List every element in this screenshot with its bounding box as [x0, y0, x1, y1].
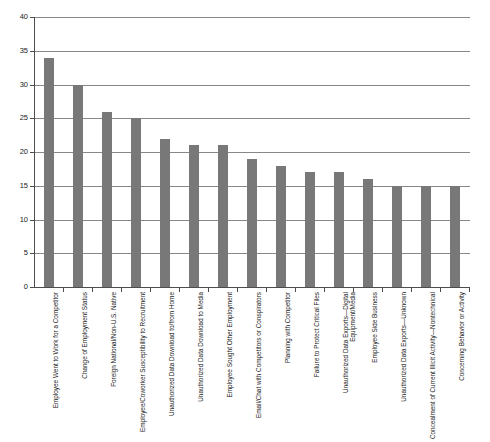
bar[interactable] — [73, 85, 83, 288]
y-axis-tick-mark — [30, 220, 34, 221]
bar[interactable] — [189, 145, 199, 287]
x-axis-tick-mark — [63, 288, 64, 292]
bar[interactable] — [276, 166, 286, 288]
bar[interactable] — [131, 118, 141, 287]
bars-container — [34, 17, 470, 287]
x-axis-tick-mark — [179, 288, 180, 292]
bar[interactable] — [247, 159, 257, 287]
x-axis-category-label: Unauthorized Data Exports—Unknown — [400, 292, 407, 440]
x-axis-category-label: Foreign National/Non-U.S. Native — [110, 292, 117, 440]
y-axis-tick-mark — [30, 51, 34, 52]
x-axis-category-label: Email/Chat with Competitors or Conspirat… — [255, 292, 262, 440]
y-axis-tick-mark — [30, 118, 34, 119]
x-axis-category-label: Unauthorized Data Download to Media — [197, 292, 204, 440]
x-axis-category-labels: Employee Went to Work for a CompetitorCh… — [0, 292, 490, 442]
y-axis-tick-mark — [30, 287, 34, 288]
x-axis-tick-mark — [121, 288, 122, 292]
y-axis-tick-label: 35 — [6, 47, 28, 55]
y-axis-tick-label: 5 — [6, 249, 28, 257]
x-axis-category-label: Concerning Behavior or Activity — [458, 292, 465, 440]
x-axis-category-label: Failure to Protect Critical Files — [313, 292, 320, 440]
x-axis-tick-mark — [266, 288, 267, 292]
bar[interactable] — [102, 112, 112, 288]
bar[interactable] — [305, 172, 315, 287]
x-axis-category-label: Concealment of Current Illicit Activity—… — [429, 292, 436, 440]
x-axis-category-label: Change of Employment Status — [81, 292, 88, 440]
x-axis-category-label: Employee Side Business — [371, 292, 378, 440]
y-axis-tick-label: 40 — [6, 13, 28, 21]
x-axis-tick-mark — [353, 288, 354, 292]
bar-chart: 0510152025303540 Employee Went to Work f… — [0, 0, 490, 442]
x-axis-category-label: Employee/Coworker Susceptibility to Recr… — [139, 292, 146, 440]
x-axis-tick-mark — [150, 288, 151, 292]
x-axis-tick-mark — [295, 288, 296, 292]
y-axis-tick-labels: 0510152025303540 — [0, 0, 28, 300]
x-axis-tick-mark — [411, 288, 412, 292]
x-axis-tick-mark — [382, 288, 383, 292]
y-axis-tick-mark — [30, 253, 34, 254]
y-axis-tick-label: 0 — [6, 283, 28, 291]
bar[interactable] — [421, 186, 431, 287]
y-axis-tick-label: 25 — [6, 114, 28, 122]
bar[interactable] — [218, 145, 228, 287]
bar[interactable] — [160, 139, 170, 288]
y-axis-tick-label: 10 — [6, 216, 28, 224]
bar[interactable] — [44, 58, 54, 288]
x-axis-category-label: Employee Sought Other Employment — [226, 292, 233, 440]
x-axis-tick-mark — [324, 288, 325, 292]
x-axis-line — [34, 287, 470, 288]
x-axis-tick-mark — [208, 288, 209, 292]
y-axis-tick-label: 15 — [6, 182, 28, 190]
bar[interactable] — [450, 186, 460, 287]
x-axis-tick-mark — [440, 288, 441, 292]
y-axis-tick-label: 30 — [6, 81, 28, 89]
y-axis-tick-label: 20 — [6, 148, 28, 156]
x-axis-tick-mark — [469, 288, 470, 292]
x-axis-category-label: Planning with Competitor — [284, 292, 291, 440]
bar[interactable] — [334, 172, 344, 287]
x-axis-category-label: Unauthorized Data Download to/from Home — [168, 292, 175, 440]
x-axis-tick-mark — [92, 288, 93, 292]
y-axis-tick-mark — [30, 186, 34, 187]
y-axis-tick-mark — [30, 17, 34, 18]
bar[interactable] — [392, 186, 402, 287]
y-axis-tick-mark — [30, 152, 34, 153]
x-axis-category-label: Employee Went to Work for a Competitor — [52, 292, 59, 440]
bar[interactable] — [363, 179, 373, 287]
y-axis-tick-mark — [30, 85, 34, 86]
x-axis-tick-mark — [237, 288, 238, 292]
x-axis-category-label: Unauthorized Data Exports—Digital Equipm… — [342, 292, 357, 440]
